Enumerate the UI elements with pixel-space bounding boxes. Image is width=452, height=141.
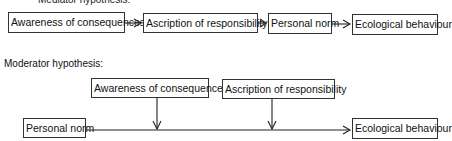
arrow-norm-to-behaviour-moderated — [86, 126, 350, 134]
arrow-awareness-moderates — [153, 98, 161, 129]
arrow-awareness-to-ascription — [125, 19, 141, 27]
arrow-ascription-moderates — [268, 99, 276, 129]
arrow-norm-to-behaviour — [332, 20, 350, 28]
arrow-ascription-to-norm — [258, 19, 266, 27]
